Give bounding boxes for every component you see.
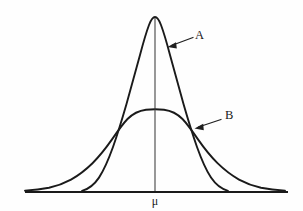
curve-a-leader bbox=[168, 38, 194, 49]
curve-b-label: B bbox=[225, 108, 234, 122]
curve-a-label: A bbox=[195, 28, 204, 42]
curve-b-leader bbox=[195, 120, 222, 131]
mean-axis-label: μ bbox=[152, 194, 158, 208]
figure-canvas: A B μ bbox=[0, 0, 303, 211]
curve-b-arrowhead bbox=[195, 124, 204, 130]
normal-distribution-figure: A B μ bbox=[0, 0, 303, 211]
